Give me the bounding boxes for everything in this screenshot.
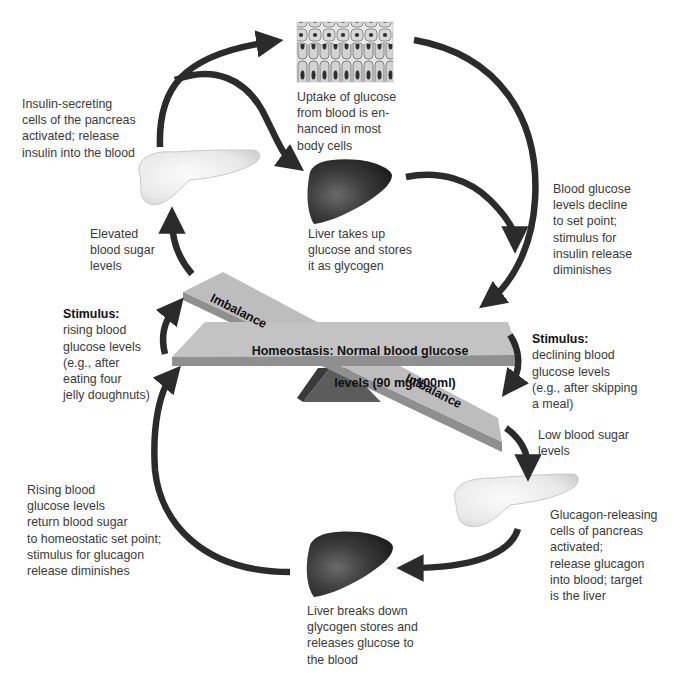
liver-icon xyxy=(307,531,393,597)
declining-stimulus-text: declining blood glucose levels (e.g., af… xyxy=(532,348,637,411)
glucagon-pancreas-label: Glucagon-releasing cells of pancreas act… xyxy=(550,507,657,604)
pancreas-icon xyxy=(139,150,260,205)
rising-stimulus-text: rising blood glucose levels (e.g., after… xyxy=(63,323,150,402)
insulin-pancreas-label: Insulin-secreting cells of the pancreas … xyxy=(22,96,136,161)
rising-stimulus: Stimulus:rising blood glucose levels (e.… xyxy=(63,290,150,403)
low-sugar-label: Low blood sugar levels xyxy=(538,427,629,459)
homeostasis-line2: levels (90 mg/100ml) xyxy=(215,375,505,391)
elevated-label: Elevated blood sugar levels xyxy=(90,226,155,275)
liver-uptake-label: Liver takes up glucose and stores it as … xyxy=(308,226,412,275)
homeostasis-line1: Homeostasis: Normal blood glucose xyxy=(215,343,505,359)
body-cells-label: Uptake of glucose from blood is en- hanc… xyxy=(297,89,396,154)
declining-stimulus-heading: Stimulus: xyxy=(532,331,637,347)
liver-icon xyxy=(307,159,392,224)
insulin-return-label: Blood glucose levels decline to set poin… xyxy=(553,181,632,278)
liver-release-label: Liver breaks down glycogen stores and re… xyxy=(307,603,418,668)
declining-stimulus: Stimulus:declining blood glucose levels … xyxy=(532,315,637,412)
epithelial-cells-icon xyxy=(297,22,393,82)
rising-stimulus-heading: Stimulus: xyxy=(63,306,150,322)
homeostasis-label: Homeostasis: Normal blood glucose levels… xyxy=(215,327,505,407)
glucagon-return-label: Rising blood glucose levels return blood… xyxy=(27,482,161,579)
